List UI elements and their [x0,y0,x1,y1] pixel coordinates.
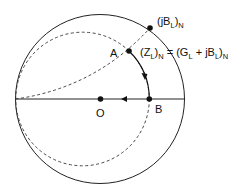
label-a: A [110,47,118,59]
label-b: B [155,103,162,115]
point-a [126,48,132,54]
point-o [98,96,104,102]
point-b [147,96,153,102]
label-equation: (ZL)N = (GL + jBL)N [140,46,228,61]
constant-susceptance-arc [16,28,151,99]
label-jbn: (jBL)N [157,15,184,30]
arrow-left-icon [121,96,127,102]
smith-chart-diagram: (jBL)N A (ZL)N = (GL + jBL)N O B [0,0,245,194]
label-o: O [96,107,105,119]
point-jbn [147,25,153,31]
